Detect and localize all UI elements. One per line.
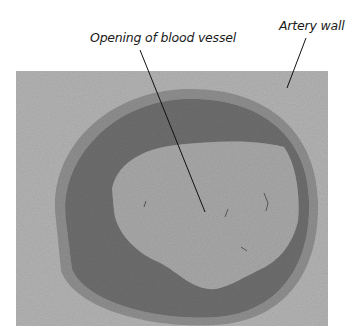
artery-cross-section-micrograph — [16, 71, 328, 326]
label-artery-wall: Artery wall — [279, 18, 344, 33]
label-opening-of-blood-vessel: Opening of blood vessel — [90, 30, 236, 45]
